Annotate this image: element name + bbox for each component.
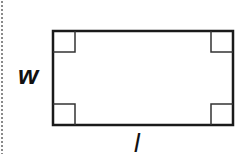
right-angle-marker-bottom-left: [53, 104, 75, 125]
rectangle-outline: [53, 31, 233, 125]
right-angle-marker-top-right: [211, 31, 233, 52]
right-angle-marker-bottom-right: [211, 104, 233, 125]
right-angle-marker-top-left: [53, 31, 75, 52]
width-label: w: [18, 60, 38, 91]
length-label: l: [134, 128, 140, 154]
